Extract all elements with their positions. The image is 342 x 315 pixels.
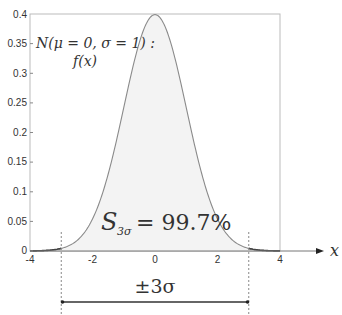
y-tick-labels: 0 0.05 0.1 0.15 0.2 0.25 0.3 0.35 0.4 <box>8 9 28 256</box>
y-tick-label: 0.1 <box>13 186 27 197</box>
distribution-label: N(μ = 0, σ = 1) : <box>35 35 155 51</box>
area-label-value: = 99.7% <box>136 210 231 235</box>
fx-label: f(x) <box>72 53 97 69</box>
range-label: ±3σ <box>135 275 176 297</box>
x-tick-label: 4 <box>277 254 283 265</box>
x-tick-label: -2 <box>88 254 97 265</box>
y-tick-label: 0.35 <box>8 38 28 49</box>
x-tick-label: 0 <box>152 254 158 265</box>
x-axis-arrow-icon <box>316 248 324 254</box>
range-arrow-left-end-icon <box>61 300 65 304</box>
x-axis-label: x <box>330 241 339 260</box>
y-tick-label: 0.05 <box>8 216 28 227</box>
y-tick-label: 0.3 <box>13 68 27 79</box>
y-tick-label: 0.15 <box>8 156 28 167</box>
x-tick-label: 2 <box>215 254 221 265</box>
area-label-S: S <box>101 208 117 236</box>
x-tick-labels: -4 -2 0 2 4 <box>26 254 284 265</box>
y-tick-label: 0.2 <box>13 127 27 138</box>
area-label-subscript: 3σ <box>117 225 132 238</box>
chart: x 0 0.05 0.1 0.15 0.2 0.25 0.3 0.35 0.4 … <box>0 0 342 315</box>
range-arrow-right-end-icon <box>246 300 250 304</box>
x-tick-label: -4 <box>26 254 35 265</box>
y-tick-label: 0.4 <box>13 9 27 20</box>
y-tick-label: 0.25 <box>8 97 28 108</box>
